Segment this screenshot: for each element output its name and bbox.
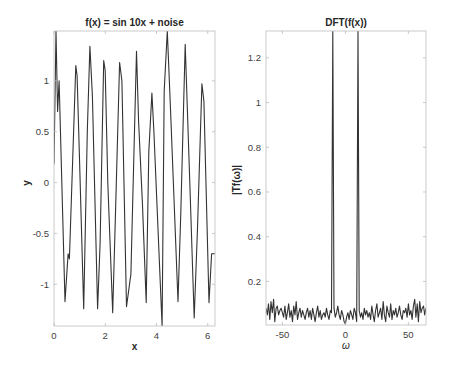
- chart-right-frame: [266, 31, 426, 325]
- x-tick-label: 6: [205, 330, 210, 341]
- chart-left: f(x) = sin 10x + noise 0246 -1-0.500.51 …: [21, 17, 215, 352]
- y-tick-label: 0.8: [248, 142, 261, 153]
- chart-right-title: DFT(f(x)): [325, 17, 367, 28]
- x-tick-label: 4: [154, 330, 159, 341]
- series-line: [266, 31, 426, 324]
- y-tick-label: 1: [44, 75, 49, 86]
- chart-right: DFT(f(x)) -50050 0.20.40.60.811.2 ω |Tf(…: [231, 17, 426, 351]
- chart-right-ylabel: |Tf(ω)|: [231, 165, 242, 195]
- chart-left-ylabel: y: [21, 180, 32, 186]
- chart-right-xlabel: ω: [342, 340, 350, 351]
- chart-left-frame: [54, 31, 215, 326]
- x-tick-label: 0: [51, 330, 56, 341]
- y-tick-label: 1: [256, 97, 261, 108]
- chart-left-plot-area: [54, 31, 215, 326]
- chart-right-x-ticks: -50050: [276, 31, 414, 340]
- series-line: [54, 31, 215, 326]
- chart-right-plot-area: [266, 31, 426, 324]
- y-tick-label: 0.6: [248, 186, 261, 197]
- chart-left-xlabel: x: [132, 341, 138, 352]
- chart-left-title: f(x) = sin 10x + noise: [85, 17, 184, 28]
- x-tick-label: 0: [343, 329, 348, 340]
- figure: f(x) = sin 10x + noise 0246 -1-0.500.51 …: [0, 0, 450, 373]
- y-tick-label: 0.4: [248, 231, 261, 242]
- y-tick-label: 1.2: [248, 52, 261, 63]
- y-tick-label: -0.5: [33, 228, 49, 239]
- y-tick-label: -1: [41, 279, 49, 290]
- x-tick-label: -50: [276, 329, 290, 340]
- y-tick-label: 0: [44, 177, 49, 188]
- y-tick-label: 0.2: [248, 276, 261, 287]
- y-tick-label: 0.5: [36, 126, 49, 137]
- x-tick-label: 50: [403, 329, 414, 340]
- chart-right-y-ticks: 0.20.40.60.811.2: [248, 52, 426, 287]
- x-tick-label: 2: [103, 330, 108, 341]
